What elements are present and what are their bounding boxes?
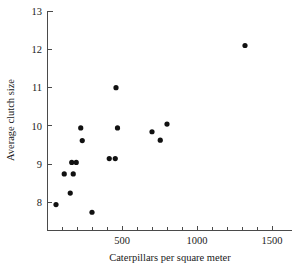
data-point <box>158 138 163 143</box>
data-point <box>115 125 120 130</box>
data-point <box>107 156 112 161</box>
axis-frame-lines <box>47 11 292 231</box>
data-point <box>242 43 247 48</box>
y-axis-tick-label: 13 <box>32 6 43 17</box>
data-point <box>149 129 154 134</box>
x-axis-tick-label: 1000 <box>187 235 208 246</box>
data-point <box>68 190 73 195</box>
data-point <box>113 156 118 161</box>
y-axis-tick-label: 11 <box>32 82 42 93</box>
y-axis-tick-label: 8 <box>37 197 42 208</box>
data-point <box>62 171 67 176</box>
y-axis-ticks <box>47 11 52 203</box>
x-axis-ticks <box>47 226 272 231</box>
x-axis-title: Caterpillars per square meter <box>109 252 231 263</box>
y-axis-tick-label: 10 <box>32 121 43 132</box>
data-point <box>78 125 83 130</box>
plot-canvas: 8910111213 50010001500 Caterpillars per … <box>0 0 306 273</box>
y-axis-title: Average clutch size <box>5 79 16 161</box>
data-point <box>71 171 76 176</box>
y-axis-tick-label: 12 <box>32 44 43 55</box>
data-point <box>113 85 118 90</box>
data-point <box>164 121 169 126</box>
data-point <box>53 202 58 207</box>
x-axis-tick-label: 500 <box>114 235 130 246</box>
y-axis-tick-labels: 8910111213 <box>32 6 43 209</box>
x-axis-tick-label: 1500 <box>262 235 283 246</box>
scatter-plot-figure: 8910111213 50010001500 Caterpillars per … <box>0 0 306 273</box>
data-point <box>69 160 74 165</box>
data-point <box>74 160 79 165</box>
y-axis-tick-label: 9 <box>37 159 42 170</box>
data-points-layer <box>53 43 247 215</box>
x-axis-tick-labels: 50010001500 <box>114 235 282 246</box>
data-point <box>80 138 85 143</box>
data-point <box>89 210 94 215</box>
